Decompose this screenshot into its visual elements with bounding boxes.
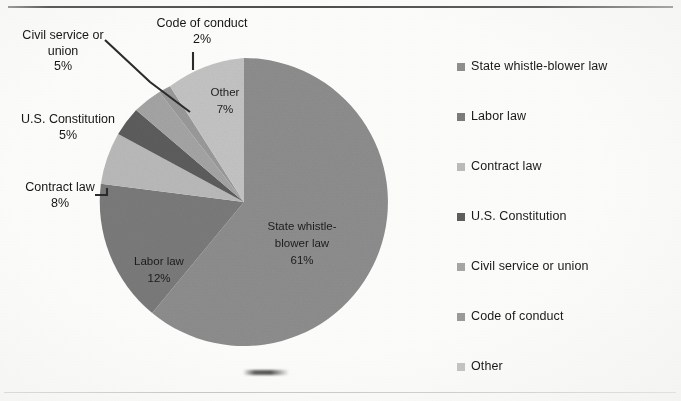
legend-swatch-icon (457, 163, 465, 171)
page-bottom-rule (4, 392, 676, 393)
legend-label: U.S. Constitution (471, 209, 567, 223)
legend-item-contract-law[interactable]: Contract law (457, 158, 672, 174)
callout-contract-percent: 8% (10, 196, 110, 212)
pie-label-state-line2: blower law (275, 237, 330, 249)
pie-slices-group (100, 58, 388, 346)
callout-code-of-conduct: Code of conduct 2% (140, 16, 264, 47)
legend-item-code-of-conduct[interactable]: Code of conduct (457, 308, 672, 324)
pie-label-other-percent: 7% (217, 103, 234, 115)
chart-legend: State whistle-blower law Labor law Contr… (457, 58, 672, 374)
page-top-rule (8, 6, 673, 8)
legend-label: Contract law (471, 159, 542, 173)
callout-code-line1: Code of conduct (140, 16, 264, 32)
pie-chart-svg: State whistle- blower law 61% Labor law … (99, 57, 389, 347)
pie-label-labor-line1: Labor law (134, 255, 185, 267)
pie-label-state-percent: 61% (290, 254, 313, 266)
pie-label-other-line1: Other (211, 86, 240, 98)
callout-contract-line1: Contract law (10, 180, 110, 196)
legend-item-us-constitution[interactable]: U.S. Constitution (457, 208, 672, 224)
legend-item-civil-service-or-union[interactable]: Civil service or union (457, 258, 672, 274)
legend-item-labor-law[interactable]: Labor law (457, 108, 672, 124)
callout-contract-law: Contract law 8% (10, 180, 110, 211)
legend-label: Code of conduct (471, 309, 564, 323)
legend-swatch-icon (457, 263, 465, 271)
legend-label: Labor law (471, 109, 526, 123)
legend-item-state-whistle-blower-law[interactable]: State whistle-blower law (457, 58, 672, 74)
callout-civil-service-or-union: Civil service or union 5% (8, 28, 118, 75)
pie-label-labor-percent: 12% (147, 272, 170, 284)
legend-label: Civil service or union (471, 259, 589, 273)
legend-swatch-icon (457, 63, 465, 71)
callout-civil-line2: union (8, 44, 118, 60)
legend-swatch-icon (457, 113, 465, 121)
callout-constitution-percent: 5% (6, 128, 130, 144)
legend-label: State whistle-blower law (471, 59, 607, 73)
callout-constitution-line1: U.S. Constitution (6, 112, 130, 128)
callout-civil-percent: 5% (8, 59, 118, 75)
pie-chart: State whistle- blower law 61% Labor law … (99, 57, 389, 347)
callout-code-percent: 2% (140, 32, 264, 48)
scan-artifact-smudge (243, 370, 289, 375)
callout-civil-line1: Civil service or (8, 28, 118, 44)
pie-label-state-line1: State whistle- (267, 220, 336, 232)
chart-page: State whistle- blower law 61% Labor law … (0, 0, 681, 401)
legend-swatch-icon (457, 363, 465, 371)
legend-item-other[interactable]: Other (457, 358, 672, 374)
legend-swatch-icon (457, 213, 465, 221)
legend-swatch-icon (457, 313, 465, 321)
legend-label: Other (471, 359, 503, 373)
callout-us-constitution: U.S. Constitution 5% (6, 112, 130, 143)
